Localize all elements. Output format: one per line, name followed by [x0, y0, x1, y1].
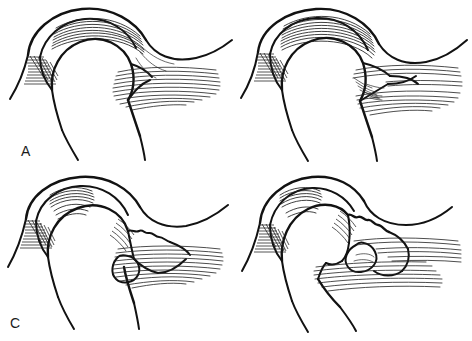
panel-c-illustration	[0, 171, 236, 341]
humeral-head-outline-c	[48, 205, 128, 297]
panel-a-illustration	[0, 0, 236, 170]
humeral-head-outline-b	[282, 38, 366, 130]
panel-b-illustration	[236, 0, 472, 170]
humeral-shaft-a	[62, 100, 145, 160]
panel-b: B	[236, 0, 472, 170]
figure-root: A	[0, 0, 472, 341]
humeral-head-outline-a	[52, 39, 134, 130]
panel-c: C	[0, 171, 236, 341]
acromion-outline-a	[10, 9, 232, 99]
humeral-shaft-c	[58, 267, 139, 329]
panel-label-a: A	[21, 144, 31, 158]
panel-d-illustration	[236, 171, 472, 341]
acromion-outline-c	[8, 177, 228, 267]
panel-a: A	[0, 0, 236, 170]
humeral-head-migrated-d	[282, 205, 348, 301]
panel-d: D	[236, 171, 472, 341]
supraspinatus-tendon-fibers-a	[52, 18, 144, 54]
panel-label-c: C	[10, 316, 21, 330]
humeral-shaft-b	[292, 101, 377, 161]
deltoid-muscle-fibers-d	[314, 238, 461, 291]
acromion-outline-d	[242, 177, 452, 271]
